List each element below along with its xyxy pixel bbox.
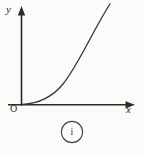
y-axis-arrowhead <box>18 6 25 16</box>
figure-container: y x O i <box>0 0 143 156</box>
figure-marker-label: i <box>61 121 83 143</box>
y-axis-label: y <box>6 4 11 15</box>
growth-curve <box>23 4 111 104</box>
x-axis-label: x <box>126 104 131 115</box>
origin-label: O <box>10 104 17 114</box>
